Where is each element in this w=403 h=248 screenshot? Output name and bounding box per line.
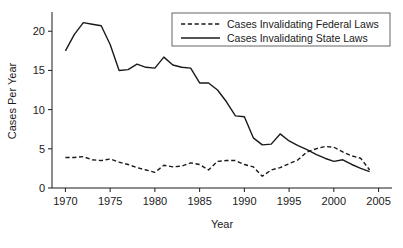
line-chart: 0510152019701975198019851990199520002005… [0,0,403,248]
x-axis-title: Year [211,218,234,230]
legend-label-federal: Cases Invalidating Federal Laws [227,18,379,30]
y-tick-label: 5 [39,143,45,155]
y-axis-title: Cases Per Year [6,62,18,139]
x-tick-label: 1995 [277,195,301,207]
x-tick-label: 1980 [143,195,167,207]
series-line-federal-laws [65,146,369,176]
y-tick-label: 15 [33,64,45,76]
x-tick-label: 1975 [98,195,122,207]
y-tick-label: 0 [39,182,45,194]
x-tick-label: 1990 [232,195,256,207]
x-tick-label: 1985 [187,195,211,207]
y-tick-label: 10 [33,104,45,116]
legend-layer: Cases Invalidating Federal LawsCases Inv… [172,13,390,46]
legend-label-state: Cases Invalidating State Laws [227,32,368,44]
x-tick-label: 1970 [53,195,77,207]
y-tick-label: 20 [33,25,45,37]
chart-container: 0510152019701975198019851990199520002005… [0,0,403,248]
x-tick-label: 2005 [366,195,390,207]
x-tick-label: 2000 [322,195,346,207]
